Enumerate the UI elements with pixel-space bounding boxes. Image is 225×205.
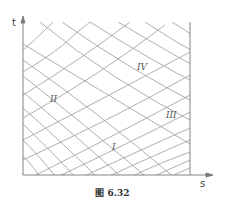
- grid-family-ascending: [23, 18, 190, 178]
- s-axis-arrow-icon: [206, 173, 213, 177]
- t-axis-arrow-icon: [21, 16, 25, 23]
- region-label-ii: II: [49, 94, 58, 104]
- region-label-iii: III: [165, 110, 177, 120]
- figure-caption: 图 6.32: [0, 186, 225, 199]
- region-label-iv: IV: [136, 62, 149, 72]
- characteristic-grid-diagram: t s I II III IV: [0, 0, 225, 205]
- region-label-i: I: [111, 142, 116, 152]
- t-axis-label: t: [12, 17, 16, 28]
